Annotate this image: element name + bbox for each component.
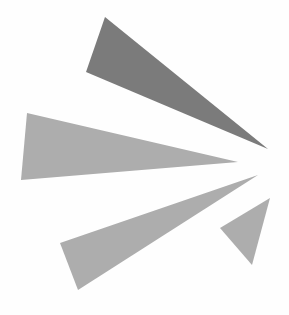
upper-dark-ray	[86, 17, 268, 149]
ray-burst-figure	[0, 0, 289, 315]
middle-large-ray	[21, 113, 238, 180]
ray-burst-svg	[0, 0, 289, 315]
small-right-ray	[220, 198, 270, 265]
